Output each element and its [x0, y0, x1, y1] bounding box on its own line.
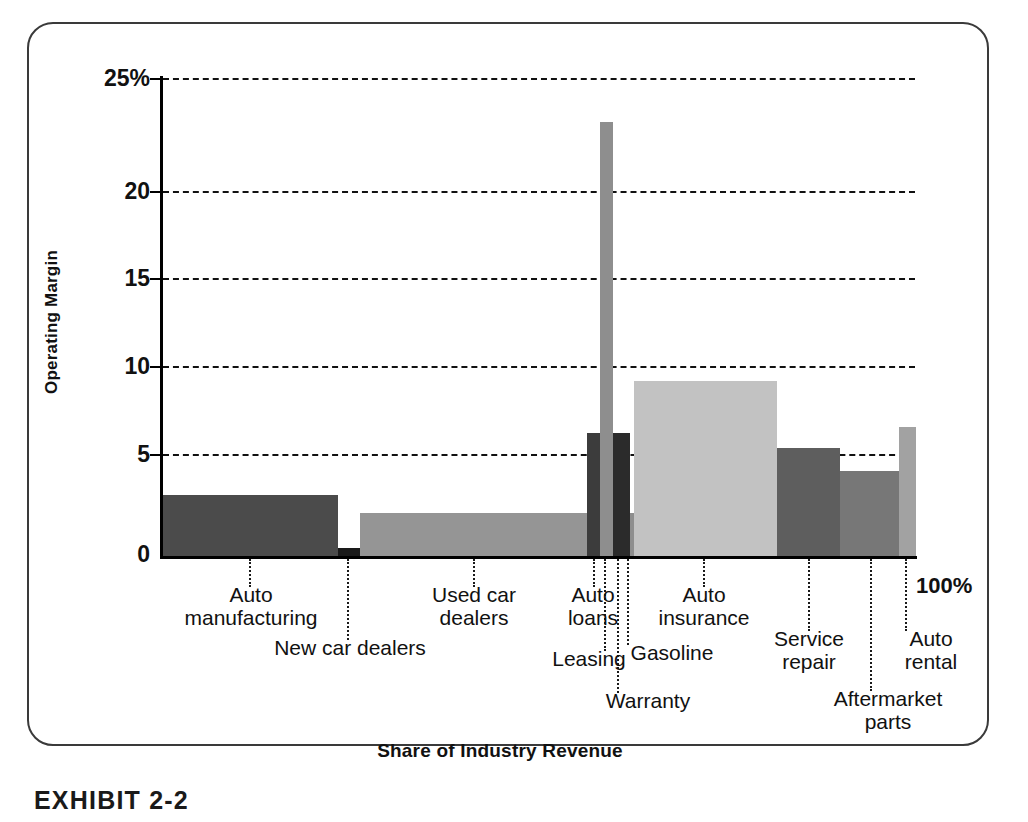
bar-auto-manufacturing[interactable]: [163, 495, 338, 556]
bar-auto-rental[interactable]: [899, 427, 916, 556]
y-tick-label-5: 5: [92, 443, 150, 466]
bar-warranty[interactable]: [613, 433, 630, 556]
y-tick-label-10: 10: [92, 355, 150, 378]
bar-used-car-dealers[interactable]: [360, 513, 587, 556]
leader-line-new-car-dealers: [347, 559, 349, 640]
bar-aftermarket-parts[interactable]: [840, 471, 899, 556]
leader-line-auto-rental: [905, 559, 907, 631]
y-tick-label-15: 15: [92, 267, 150, 290]
gridline-10: [163, 366, 915, 368]
bar-service-repair[interactable]: [777, 448, 840, 556]
y-tick-label-20: 20: [92, 180, 150, 203]
category-label-auto-rental: Auto rental: [876, 628, 986, 673]
category-label-service-repair: Service repair: [742, 628, 876, 673]
category-label-auto-manufacturing: Auto manufacturing: [165, 584, 337, 629]
category-label-auto-insurance: Auto insurance: [633, 584, 775, 629]
bar-leasing[interactable]: [600, 122, 613, 556]
y-tick-label-25: 25%: [92, 67, 150, 90]
gridline-20: [163, 191, 915, 193]
category-label-warranty: Warranty: [588, 690, 708, 713]
y-axis-line: [160, 76, 163, 559]
gridline-25: [163, 78, 915, 80]
leader-line-service-repair: [808, 559, 810, 631]
chart-plot-area: Operating Margin 25% 20 15 10 5 0 Auto m…: [0, 0, 1028, 822]
bar-auto-insurance[interactable]: [634, 381, 777, 556]
y-axis-title: Operating Margin: [42, 222, 62, 422]
figure-caption: EXHIBIT 2-2: [34, 786, 189, 815]
category-label-new-car-dealers: New car dealers: [255, 637, 445, 660]
gridline-15: [163, 278, 915, 280]
x-axis-line: [160, 556, 917, 559]
category-label-gasoline: Gasoline: [613, 642, 731, 665]
bar-new-car-dealers[interactable]: [338, 548, 360, 556]
category-label-aftermarket-parts: Aftermarket parts: [808, 688, 968, 733]
category-label-used-car-dealers: Used car dealers: [398, 584, 550, 629]
bar-auto-loans[interactable]: [587, 433, 600, 556]
category-label-auto-loans: Auto loans: [545, 584, 641, 629]
y-tick-label-0: 0: [92, 543, 150, 566]
x-axis-end-label: 100%: [916, 573, 972, 599]
x-axis-title: Share of Industry Revenue: [300, 740, 700, 762]
